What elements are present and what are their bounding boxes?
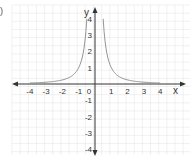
x-tick-label: 2 <box>125 87 130 96</box>
x-tick-label: 3 <box>142 87 147 96</box>
x-axis-label: x <box>173 85 178 96</box>
x-tick-label: 0 <box>87 87 92 96</box>
y-tick-label: 1 <box>88 64 93 73</box>
x-tick-label: -4 <box>26 87 34 96</box>
x-axis-left-arrow-icon <box>12 82 18 87</box>
y-tick-label: -2 <box>85 113 93 122</box>
y-tick-label: -3 <box>85 129 93 138</box>
y-tick-label: 3 <box>88 31 93 40</box>
curve-right-branch <box>103 19 160 83</box>
tick-labels: -4-3-2-1012344321-1-2-3-4xy <box>26 7 178 154</box>
y-tick-label: -1 <box>85 96 93 105</box>
x-tick-label: 1 <box>109 87 114 96</box>
grid <box>12 5 190 155</box>
x-tick-label: -3 <box>43 87 51 96</box>
x-tick-label: 4 <box>158 87 163 96</box>
x-tick-label: -2 <box>59 87 67 96</box>
curve-left-branch <box>30 19 87 83</box>
x-tick-label: -1 <box>75 87 83 96</box>
y-axis-label: y <box>84 7 89 18</box>
y-tick-label: -4 <box>85 145 93 154</box>
graph: -4-3-2-1012344321-1-2-3-4xy <box>0 0 194 160</box>
y-tick-label: 2 <box>88 47 93 56</box>
